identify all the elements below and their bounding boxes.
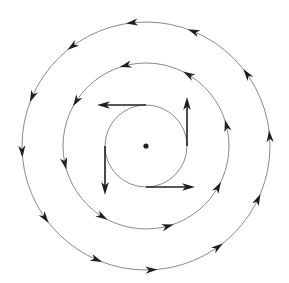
bottom-vector <box>146 183 195 191</box>
circulation-diagram <box>0 0 289 283</box>
arrowhead-icon <box>243 69 253 81</box>
arrowhead-icon <box>67 40 79 50</box>
arrowhead-icon <box>73 94 82 106</box>
center-point <box>143 143 148 148</box>
left-vector <box>101 146 109 195</box>
arrowhead-icon <box>252 194 260 206</box>
arrowhead-icon <box>39 211 49 223</box>
arrowhead-icon <box>30 90 38 103</box>
arrowhead-icon <box>212 182 221 194</box>
right-vector <box>183 97 191 146</box>
top-vector <box>97 101 146 109</box>
arrowhead-icon <box>161 224 174 231</box>
arrowhead-icon <box>90 254 103 262</box>
arrowhead-icon <box>95 211 107 220</box>
arrowhead-icon <box>183 72 195 81</box>
arrowhead-icon <box>211 243 223 253</box>
